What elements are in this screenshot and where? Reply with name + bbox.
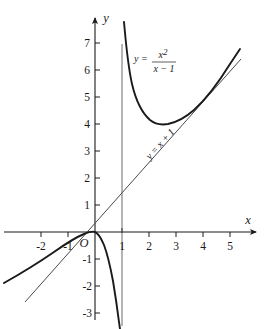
curve-equation-prefix: y =: [133, 53, 148, 64]
graph-plot: -2 -1 1 2 3 4 5 7 6 5 4 3 2 1 -1 -2 -3 O…: [0, 0, 275, 329]
x-tick-label-neg1: -1: [63, 240, 73, 252]
x-tick-label-4: 4: [200, 240, 206, 252]
x-tick-label-1: 1: [119, 240, 125, 252]
y-tick-labels: 7 6 5 4 3 2 1 -1 -2 -3: [82, 37, 92, 319]
figure-container: -2 -1 1 2 3 4 5 7 6 5 4 3 2 1 -1 -2 -3 O…: [0, 0, 275, 329]
axis-lines: [4, 18, 256, 320]
curve-equation-numerator: x2: [158, 47, 168, 60]
x-tick-label-3: 3: [173, 240, 179, 252]
y-tick-label-2: 2: [84, 172, 90, 184]
y-tick-label-3: 3: [84, 145, 90, 157]
y-tick-label-4: 4: [84, 118, 90, 130]
y-tick-label-6: 6: [84, 64, 90, 76]
y-tick-label-neg1: -1: [82, 253, 92, 265]
y-tick-label-7: 7: [84, 37, 90, 49]
x-tick-label-5: 5: [227, 240, 233, 252]
y-axis-ticks: [95, 43, 100, 313]
curve-right-branch: [124, 22, 240, 125]
curve-equation-label: y = x2 x − 1: [133, 47, 176, 74]
x-tick-labels: -2 -1 1 2 3 4 5: [36, 240, 233, 252]
line-equation-label: y = x + 1: [143, 126, 177, 162]
curve-equation-denominator: x − 1: [152, 63, 174, 74]
y-tick-label-5: 5: [84, 91, 90, 103]
y-tick-label-neg3: -3: [82, 307, 92, 319]
y-tick-label-neg2: -2: [82, 280, 92, 292]
curve-left-branch: [4, 232, 120, 329]
y-tick-label-1: 1: [84, 199, 90, 211]
y-axis-label: y: [101, 11, 109, 25]
x-tick-label-2: 2: [146, 240, 152, 252]
x-tick-label-neg2: -2: [36, 240, 46, 252]
origin-label: O: [79, 236, 88, 250]
x-axis-label: x: [244, 213, 251, 227]
